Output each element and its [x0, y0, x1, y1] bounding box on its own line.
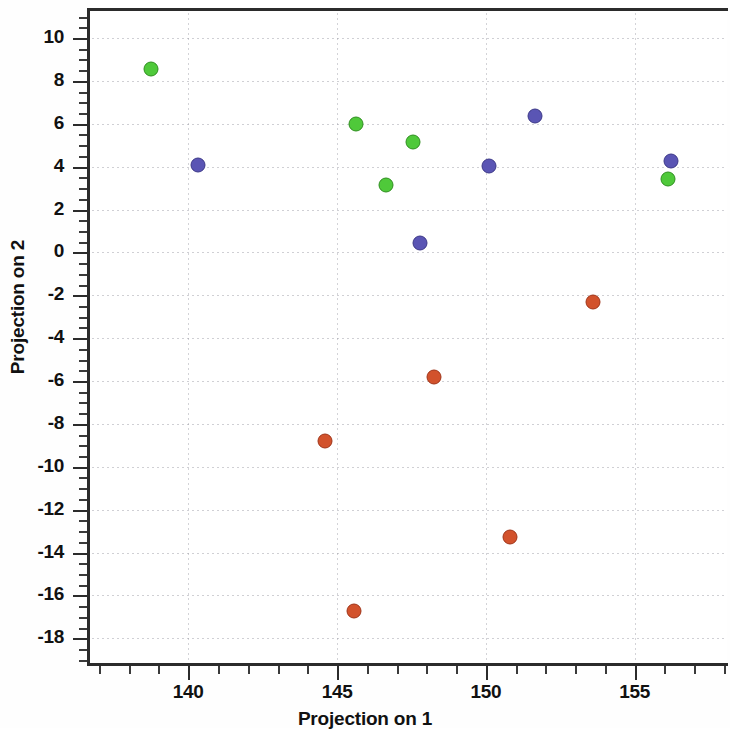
data-point-red-group — [346, 604, 361, 619]
y-tick-minor — [79, 542, 87, 544]
y-tick-minor — [79, 445, 87, 447]
x-tick-label: 145 — [322, 681, 353, 703]
y-tick-minor — [79, 456, 87, 458]
x-tick-label: 155 — [619, 681, 650, 703]
y-tick-major — [73, 38, 87, 40]
y-tick-minor — [79, 49, 87, 51]
grid-line-horizontal — [87, 338, 727, 339]
y-tick-minor — [79, 660, 87, 662]
y-tick-label: -6 — [48, 369, 64, 391]
data-point-blue-group — [191, 157, 206, 172]
grid-line-horizontal — [87, 295, 727, 296]
y-tick-minor — [79, 585, 87, 587]
data-point-blue-group — [481, 158, 496, 173]
grid-line-horizontal — [87, 381, 727, 382]
y-tick-minor — [79, 156, 87, 158]
y-tick-major — [73, 510, 87, 512]
y-tick-minor — [79, 520, 87, 522]
x-tick-minor — [158, 666, 160, 674]
data-point-red-group — [426, 369, 441, 384]
y-tick-minor — [79, 27, 87, 29]
y-tick-label: 2 — [54, 198, 64, 220]
data-point-blue-group — [664, 153, 679, 168]
x-tick-major — [635, 666, 637, 680]
x-tick-minor — [545, 666, 547, 674]
y-tick-major — [73, 553, 87, 555]
y-tick-minor — [79, 531, 87, 533]
x-tick-minor — [367, 666, 369, 674]
y-axis-title: Projection on 2 — [7, 227, 29, 387]
y-tick-major — [73, 252, 87, 254]
y-tick-minor — [79, 349, 87, 351]
x-tick-minor — [456, 666, 458, 674]
y-tick-major — [73, 381, 87, 383]
y-tick-minor — [79, 488, 87, 490]
y-tick-label: 4 — [54, 155, 64, 177]
x-tick-minor — [664, 666, 666, 674]
grid-line-horizontal — [87, 38, 727, 39]
data-point-red-group — [317, 434, 332, 449]
y-tick-major — [73, 124, 87, 126]
x-tick-minor — [516, 666, 518, 674]
y-tick-minor — [79, 102, 87, 104]
y-tick-minor — [79, 360, 87, 362]
y-tick-label: 8 — [54, 69, 64, 91]
y-tick-major — [73, 595, 87, 597]
y-tick-label: 10 — [43, 26, 64, 48]
y-tick-minor — [79, 242, 87, 244]
y-tick-major — [73, 424, 87, 426]
y-tick-label: -12 — [37, 498, 64, 520]
y-tick-minor — [79, 649, 87, 651]
y-tick-label: -8 — [48, 412, 64, 434]
y-tick-minor — [79, 199, 87, 201]
y-tick-minor — [79, 435, 87, 437]
data-point-blue-group — [412, 235, 427, 250]
y-tick-minor — [79, 606, 87, 608]
y-tick-minor — [79, 499, 87, 501]
y-tick-minor — [79, 317, 87, 319]
x-tick-minor — [248, 666, 250, 674]
y-tick-label: -10 — [37, 455, 64, 477]
y-tick-minor — [79, 188, 87, 190]
x-tick-label: 140 — [173, 681, 204, 703]
x-tick-minor — [397, 666, 399, 674]
data-point-red-group — [586, 295, 601, 310]
y-tick-minor — [79, 574, 87, 576]
data-point-green-group — [144, 62, 159, 77]
y-tick-minor — [79, 274, 87, 276]
grid-line-horizontal — [87, 167, 727, 168]
x-tick-label: 150 — [470, 681, 501, 703]
y-tick-minor — [79, 617, 87, 619]
y-tick-minor — [79, 327, 87, 329]
y-tick-major — [73, 338, 87, 340]
y-tick-major — [73, 81, 87, 83]
x-tick-major — [337, 666, 339, 680]
y-tick-minor — [79, 563, 87, 565]
x-axis-title: Projection on 1 — [0, 708, 730, 730]
grid-line-vertical — [635, 8, 636, 664]
data-point-red-group — [502, 529, 517, 544]
data-point-green-group — [349, 117, 364, 132]
grid-line-horizontal — [87, 510, 727, 511]
grid-line-vertical — [188, 8, 189, 664]
y-tick-minor — [79, 113, 87, 115]
x-tick-minor — [426, 666, 428, 674]
data-point-green-group — [405, 134, 420, 149]
y-tick-minor — [79, 285, 87, 287]
y-tick-label: -14 — [37, 541, 64, 563]
grid-line-horizontal — [87, 638, 727, 639]
y-tick-minor — [79, 17, 87, 19]
grid-line-horizontal — [87, 81, 727, 82]
x-tick-major — [188, 666, 190, 680]
x-tick-minor — [605, 666, 607, 674]
grid-line-horizontal — [87, 424, 727, 425]
data-point-blue-group — [528, 109, 543, 124]
grid-line-horizontal — [87, 252, 727, 253]
y-tick-minor — [79, 263, 87, 265]
y-tick-minor — [79, 134, 87, 136]
y-tick-minor — [79, 177, 87, 179]
y-tick-major — [73, 638, 87, 640]
y-tick-minor — [79, 70, 87, 72]
y-tick-minor — [79, 145, 87, 147]
